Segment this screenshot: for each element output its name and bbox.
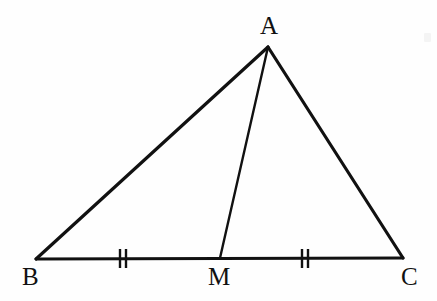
vertex-label-c: C (401, 264, 418, 289)
vertex-label-m: M (208, 264, 230, 289)
segment-ab (36, 47, 268, 259)
geometry-figure: A B M C (0, 0, 437, 301)
segment-ac (268, 47, 403, 258)
segment-am-median (220, 47, 268, 258)
vertex-label-a: A (260, 13, 278, 38)
triangle-diagram-canvas (0, 0, 437, 301)
vertex-label-b: B (22, 264, 39, 289)
scan-artifact-speck (424, 33, 431, 42)
